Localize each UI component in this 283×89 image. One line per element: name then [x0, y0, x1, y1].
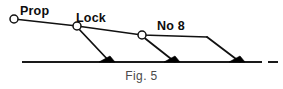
foot-block-3: [229, 56, 245, 62]
foot-block-1: [99, 56, 115, 62]
strut-line-end: [207, 37, 240, 62]
label-lock: Lock: [76, 12, 106, 25]
strut-line-no8: [142, 36, 175, 62]
joint-circle-no8: [138, 31, 146, 39]
figure-caption: Fig. 5: [0, 70, 283, 82]
label-no8: No 8: [157, 20, 185, 33]
foot-block-2: [164, 56, 180, 62]
joint-circle-prop: [10, 15, 18, 23]
figure-container: Prop Lock No 8 Fig. 5: [0, 0, 283, 89]
label-prop: Prop: [20, 5, 49, 18]
strut-line-lock: [77, 27, 110, 62]
